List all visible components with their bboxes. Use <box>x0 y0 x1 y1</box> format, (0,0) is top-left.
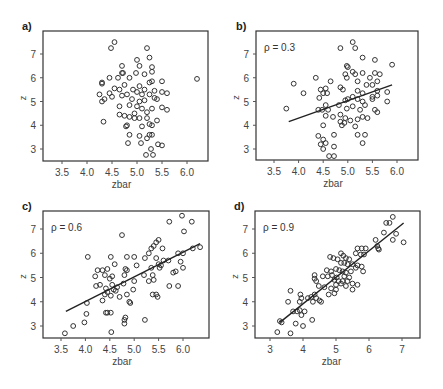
data-point <box>135 58 140 63</box>
data-point <box>137 64 142 69</box>
data-point <box>150 65 155 70</box>
y-tick-label: 4 <box>30 120 36 131</box>
figure-canvas: a)345673.54.04.55.05.56.0zbarzb)345673.5… <box>0 0 443 389</box>
x-tick-label: 5.0 <box>130 167 144 178</box>
data-point <box>387 221 392 226</box>
data-point <box>139 141 144 146</box>
data-point <box>151 278 156 283</box>
data-point <box>293 321 298 326</box>
y-tick-label: 4 <box>242 297 248 308</box>
data-point <box>95 268 100 273</box>
data-point <box>301 91 306 96</box>
data-point <box>370 83 375 88</box>
data-point <box>122 273 127 278</box>
data-point <box>338 46 343 51</box>
data-point <box>120 93 125 98</box>
data-point <box>353 124 358 129</box>
data-point <box>147 92 152 97</box>
data-point <box>144 153 149 158</box>
data-points <box>97 40 199 158</box>
data-point <box>344 284 349 289</box>
data-point <box>350 40 355 45</box>
y-tick-label: 4 <box>243 120 249 131</box>
x-tick-label: 5.0 <box>127 344 141 355</box>
data-point <box>160 246 165 251</box>
data-point <box>182 229 187 234</box>
data-point <box>100 298 105 303</box>
data-point <box>390 215 395 220</box>
data-points <box>63 213 203 335</box>
data-point <box>368 75 373 80</box>
x-tick-label: 4 <box>300 344 306 355</box>
panel-label: a) <box>22 20 32 32</box>
data-point <box>145 136 150 141</box>
scatter-panel-a: a)345673.54.04.55.05.56.0zbarz <box>18 20 208 190</box>
data-point <box>131 287 136 292</box>
data-point <box>350 104 355 109</box>
y-tick-label: 3 <box>30 144 36 155</box>
data-point <box>323 103 328 108</box>
y-tick-label: 7 <box>30 49 36 60</box>
data-point <box>284 106 289 111</box>
data-point <box>345 65 350 70</box>
panel-label: b) <box>236 20 247 32</box>
y-tick-label: 3 <box>30 321 36 332</box>
data-point <box>198 245 203 250</box>
x-tick-label: 4.0 <box>80 167 94 178</box>
data-point <box>350 281 355 286</box>
data-point <box>189 219 194 224</box>
data-point <box>145 46 150 51</box>
data-point <box>375 93 380 98</box>
data-point <box>82 320 87 325</box>
data-point <box>142 98 147 103</box>
data-point <box>160 79 165 84</box>
data-point <box>165 107 170 112</box>
scatter-panel-d: d)3456734567zbarzρ = 0.9 <box>230 200 420 367</box>
data-point <box>377 72 382 77</box>
correlation-annotation: ρ = 0.3 <box>264 42 295 53</box>
x-tick-label: 3.5 <box>267 166 281 177</box>
y-tick-label: 3 <box>242 321 248 332</box>
data-point <box>140 92 145 97</box>
data-point <box>355 117 360 122</box>
x-tick-label: 5.5 <box>155 167 169 178</box>
panel-label: c) <box>22 200 32 212</box>
data-point <box>355 132 360 137</box>
data-point <box>151 153 156 158</box>
data-point <box>152 88 157 93</box>
y-tick-label: 5 <box>30 97 36 108</box>
data-point <box>316 134 321 139</box>
regression-line <box>66 244 200 312</box>
data-point <box>382 230 387 235</box>
data-point <box>327 154 332 159</box>
data-point <box>150 106 155 111</box>
data-point <box>137 134 142 139</box>
data-point <box>122 113 127 118</box>
data-point <box>360 141 365 146</box>
data-point <box>353 46 358 51</box>
data-point <box>134 71 139 76</box>
data-point <box>385 90 390 95</box>
data-point <box>154 256 159 261</box>
data-point <box>385 99 390 104</box>
x-tick-label: 7 <box>399 344 405 355</box>
data-point <box>127 115 132 120</box>
data-point <box>112 40 117 45</box>
data-point <box>127 132 132 137</box>
data-point <box>360 115 365 120</box>
data-point <box>288 331 293 336</box>
data-point <box>117 295 122 300</box>
data-point <box>160 90 165 95</box>
data-point <box>317 96 322 101</box>
data-point <box>147 55 152 60</box>
data-point <box>334 282 339 287</box>
x-tick-label: 5.5 <box>365 166 379 177</box>
data-point <box>329 286 334 291</box>
data-point <box>167 219 172 224</box>
data-point <box>140 106 145 111</box>
data-point <box>364 83 369 88</box>
data-point <box>353 251 358 256</box>
data-point <box>103 273 108 278</box>
data-point <box>321 123 326 128</box>
correlation-annotation: ρ = 0.6 <box>51 222 82 233</box>
